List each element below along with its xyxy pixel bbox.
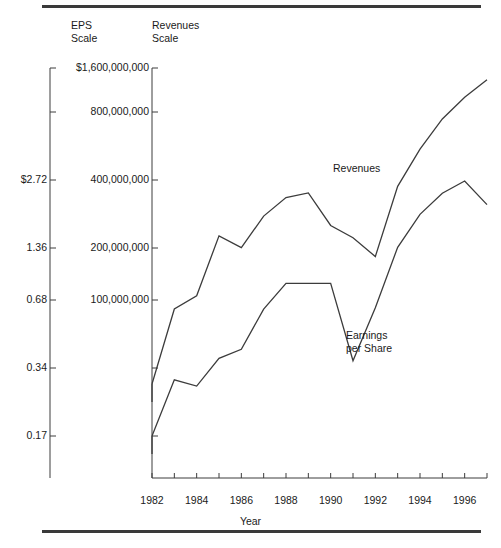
x-tick-label-1996: 1996	[443, 494, 487, 506]
eps-tick-label-4: 0.34	[27, 361, 47, 373]
revenue-tick-label-2: 400,000,000	[91, 173, 149, 185]
revenue-tick-label-1: 800,000,000	[91, 105, 149, 117]
x-tick-label-1988: 1988	[264, 494, 308, 506]
eps-tick-label-2: 1.36	[27, 241, 47, 253]
revenue-tick-label-0: $1,600,000,000	[76, 61, 149, 73]
x-tick-label-1992: 1992	[353, 494, 397, 506]
x-tick-label-1982: 1982	[130, 494, 174, 506]
x-tick-label-1990: 1990	[309, 494, 353, 506]
series-label-revenues: Revenues	[333, 162, 380, 175]
eps-tick-label-3: 0.68	[27, 293, 47, 305]
x-tick-label-1984: 1984	[175, 494, 219, 506]
series-label-eps: Earnings per Share	[346, 329, 392, 354]
eps-tick-label-5: 0.17	[27, 429, 47, 441]
x-axis-title: Year	[0, 515, 501, 527]
eps-line	[152, 181, 487, 436]
revenue-tick-label-4: 100,000,000	[91, 293, 149, 305]
chart-figure: EPS Scale Revenues Scale $2.721.360.680.…	[0, 0, 501, 548]
axes-layer	[50, 68, 487, 478]
x-tick-label-1986: 1986	[219, 494, 263, 506]
revenue-tick-label-3: 200,000,000	[91, 241, 149, 253]
series-layer	[152, 80, 487, 454]
revenues-line	[152, 80, 487, 384]
plot-canvas	[0, 0, 501, 548]
eps-tick-label-1: $2.72	[21, 173, 47, 185]
x-tick-label-1994: 1994	[398, 494, 442, 506]
